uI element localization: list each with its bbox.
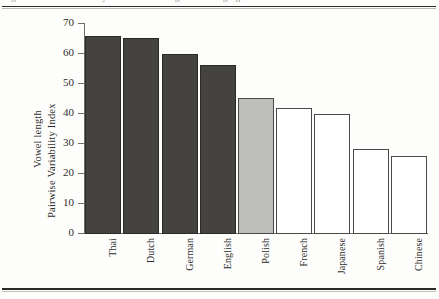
x-label-german: German (184, 238, 195, 271)
bar-dutch[interactable] (123, 38, 159, 235)
y-axis-title-line1: Vowel length (32, 110, 43, 168)
x-label-french: French (298, 238, 309, 266)
bar-japanese[interactable] (314, 114, 350, 234)
bar-english[interactable] (200, 65, 236, 235)
x-label-dutch: Dutch (145, 238, 156, 263)
y-axis-title-line2: Pairwise Variability Index (46, 103, 57, 218)
bar-chart: Vowel length Pairwise Variability Index … (0, 0, 439, 299)
bar-polish[interactable] (238, 98, 274, 235)
bar-thai[interactable] (85, 36, 121, 234)
y-tick-label-30: 30 (63, 136, 74, 149)
x-label-english: English (222, 238, 233, 269)
bar-series (84, 23, 428, 234)
y-tick-label-0: 0 (69, 226, 75, 239)
bar-chinese[interactable] (391, 156, 427, 234)
x-label-chinese: Chinese (413, 238, 424, 271)
bar-german[interactable] (162, 54, 198, 234)
bar-spanish[interactable] (353, 149, 389, 235)
x-label-polish: Polish (260, 238, 271, 264)
x-label-spanish: Spanish (375, 238, 386, 270)
x-label-thai: Thai (107, 238, 118, 257)
x-label-japanese: Japanese (336, 238, 347, 274)
y-tick-label-60: 60 (63, 46, 74, 59)
y-tick-label-40: 40 (63, 106, 74, 119)
y-tick-label-70: 70 (63, 16, 74, 29)
x-axis-labels: ThaiDutchGermanEnglishPolishFrenchJapane… (84, 236, 428, 294)
bar-french[interactable] (276, 108, 312, 234)
y-tick-label-50: 50 (63, 76, 74, 89)
y-tick-label-20: 20 (63, 166, 74, 179)
y-tick-label-10: 10 (63, 196, 74, 209)
